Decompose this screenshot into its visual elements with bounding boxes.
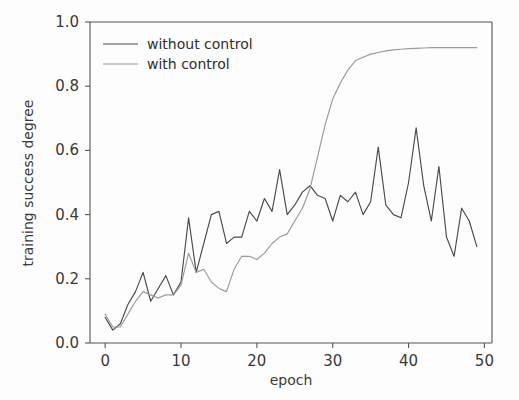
y-tick-label: 0.4 — [55, 206, 79, 224]
line-chart: 01020304050 0.00.20.40.60.81.0 epoch tra… — [0, 0, 519, 400]
x-tick-label: 0 — [100, 352, 110, 370]
x-tick-label: 40 — [399, 352, 418, 370]
y-tick-label: 0.8 — [55, 77, 79, 95]
x-tick-label: 30 — [323, 352, 342, 370]
y-tick-label: 0.6 — [55, 141, 79, 159]
y-axis-label: training success degree — [20, 100, 36, 267]
y-tick-label: 1.0 — [55, 13, 79, 31]
x-axis-label: epoch — [270, 372, 313, 388]
x-tick-label: 20 — [247, 352, 266, 370]
x-tick-label: 10 — [171, 352, 190, 370]
legend-label-without-control: without control — [147, 36, 253, 52]
y-tick-label: 0.0 — [55, 334, 79, 352]
y-tick-label: 0.2 — [55, 270, 79, 288]
x-tick-label: 50 — [475, 352, 494, 370]
legend-label-with-control: with control — [147, 56, 230, 72]
chart-figure: 01020304050 0.00.20.40.60.81.0 epoch tra… — [0, 0, 519, 400]
